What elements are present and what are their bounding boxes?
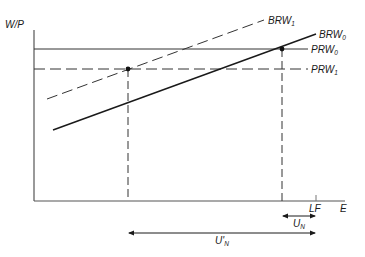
equilibrium-point-0 — [280, 47, 285, 52]
unp-label: U'N — [215, 235, 229, 247]
lf-label: LF — [309, 203, 322, 214]
x-axis-label: E — [340, 203, 347, 214]
prw1-label: PRW1 — [311, 64, 338, 76]
brw1-line — [47, 20, 264, 99]
equilibrium-point-1 — [126, 67, 131, 72]
prw0-label: PRW0 — [311, 44, 338, 56]
un-label: UN — [293, 218, 305, 230]
brw1-label: BRW1 — [268, 15, 295, 27]
y-axis-label: W/P — [5, 19, 24, 30]
brw0-label: BRW0 — [319, 29, 346, 41]
labor-market-diagram: W/P E LF BRW1 BRW0 PRW0 PRW1 UN U'N — [0, 0, 365, 257]
